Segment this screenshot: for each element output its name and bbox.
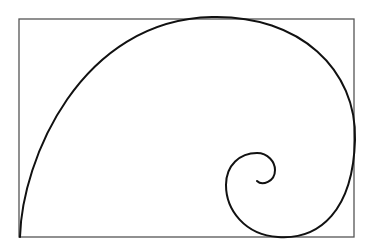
golden-spiral-curve: [20, 17, 355, 237]
golden-rectangle: [19, 19, 354, 237]
diagram-svg: [0, 0, 374, 251]
golden-spiral-diagram: [0, 0, 374, 251]
